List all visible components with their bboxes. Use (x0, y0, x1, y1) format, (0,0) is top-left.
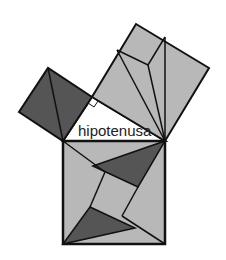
hypotenuse-label: hipotenusa (78, 122, 152, 139)
pythagoras-diagram: hipotenusa (0, 0, 226, 260)
square-on-hypotenuse (63, 141, 165, 244)
